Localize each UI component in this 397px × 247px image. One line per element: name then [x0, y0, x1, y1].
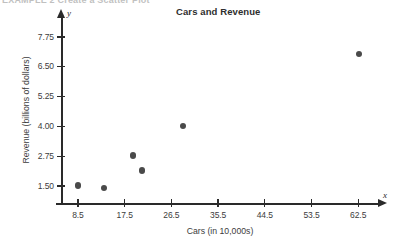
scatter-plot-figure: EXAMPLE 2 Create a Scatter Plot Cars and…: [0, 0, 397, 247]
y-axis-line: [61, 16, 63, 204]
y-tick: [57, 126, 65, 127]
data-point: [75, 182, 81, 188]
x-tick: [217, 199, 218, 207]
x-axis-variable-label: x: [383, 190, 387, 200]
x-axis-arrow-icon: [378, 199, 387, 207]
y-tick: [57, 96, 65, 97]
x-tick-label: 35.5: [203, 210, 233, 220]
plot-area: y x 1.502.754.005.256.507.75 8.517.526.5…: [0, 0, 397, 247]
data-point: [130, 152, 136, 158]
x-tick-label: 26.5: [156, 210, 186, 220]
x-axis-title: Cars (in 10,000s): [120, 226, 320, 236]
y-axis-variable-label: y: [67, 8, 71, 18]
x-tick: [77, 199, 78, 207]
x-tick-label: 53.5: [297, 210, 327, 220]
x-tick-label: 17.5: [110, 210, 140, 220]
y-tick: [57, 185, 65, 186]
x-tick: [358, 199, 359, 207]
x-tick: [311, 199, 312, 207]
y-tick: [57, 36, 65, 37]
x-tick: [124, 199, 125, 207]
y-axis-title: Revenue (billions of dollars): [21, 30, 31, 190]
x-tick: [171, 199, 172, 207]
x-tick: [264, 199, 265, 207]
data-point: [101, 185, 107, 191]
x-tick-label: 8.5: [63, 210, 93, 220]
data-point: [180, 123, 186, 129]
x-tick-label: 44.5: [250, 210, 280, 220]
x-tick-label: 62.5: [343, 210, 373, 220]
y-tick: [57, 66, 65, 67]
data-point: [139, 167, 145, 173]
data-point: [356, 51, 362, 57]
y-axis-arrow-icon: [57, 9, 65, 18]
y-tick: [57, 156, 65, 157]
